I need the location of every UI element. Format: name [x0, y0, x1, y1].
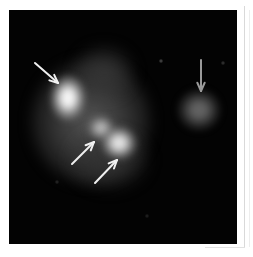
panel-edge-rule [244, 6, 245, 248]
arrow-knot-a-icon [35, 63, 58, 83]
panel-edge-rule-secondary [249, 10, 250, 247]
arrow-knot-c-icon [95, 160, 117, 183]
panel-bottom-rule [205, 247, 245, 248]
arrow-knot-b-icon [72, 142, 94, 164]
astronomical-image-plate [9, 10, 237, 244]
annotation-arrow-layer [9, 10, 237, 244]
arrow-companion-icon [197, 60, 204, 91]
figure-root [0, 0, 253, 257]
